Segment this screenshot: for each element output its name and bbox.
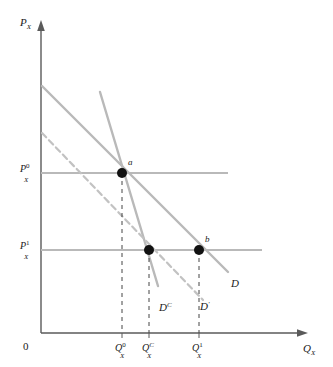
origin-label: 0: [23, 340, 29, 352]
svg-text:X: X: [146, 352, 152, 360]
curve-label-DC: DC: [158, 301, 172, 313]
quantity-tick-group: [122, 333, 199, 338]
curve-group: [42, 86, 228, 300]
svg-text:X: X: [23, 253, 29, 261]
curve-label-Dprime: D′: [199, 300, 210, 312]
quantity-tick-label-q1: Q1 X: [192, 341, 203, 360]
point-a-marker: [117, 168, 127, 178]
point-c-marker: [144, 245, 154, 255]
curve-label-D: D: [230, 277, 239, 289]
axis-group: [37, 20, 308, 337]
curve-DC: [100, 92, 158, 286]
svg-text:P0: P0: [19, 162, 30, 174]
svg-text:P1: P1: [19, 239, 30, 251]
svg-text:X: X: [119, 352, 125, 360]
point-label-a: a: [128, 157, 133, 167]
demand-curve-diagram: a b PX QX 0 P0 X P1 X: [0, 0, 333, 367]
quantity-tick-label-qc: QC X: [142, 341, 154, 360]
curve-D: [42, 86, 228, 272]
point-group: [117, 168, 204, 255]
svg-text:X: X: [196, 352, 202, 360]
x-axis-label: QX: [303, 342, 316, 357]
y-axis-label: PX: [19, 16, 32, 31]
price-line-group: [41, 173, 262, 250]
price-tick-label-p0: P0 X: [19, 162, 30, 184]
x-axis-arrow-icon: [297, 329, 308, 337]
y-axis-arrow-icon: [37, 20, 45, 31]
quantity-tick-label-q0: Q0 X: [115, 341, 126, 360]
svg-text:X: X: [23, 176, 29, 184]
point-label-b: b: [205, 234, 210, 244]
point-b-marker: [194, 245, 204, 255]
price-tick-label-p1: P1 X: [19, 239, 30, 261]
